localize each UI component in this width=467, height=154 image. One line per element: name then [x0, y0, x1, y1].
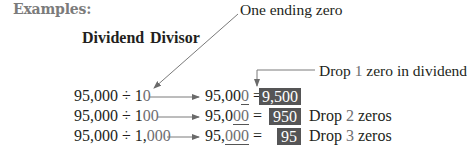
- row-3-note-suffix: zeros: [354, 127, 392, 144]
- row-1-dividend: 95,000: [74, 87, 118, 104]
- row-2-result-underlined: 00: [233, 107, 249, 124]
- row-1-answer-box: 9,500: [259, 88, 301, 105]
- row-2-operator: ÷: [122, 107, 131, 124]
- row-1-result-underlined: 0: [241, 87, 249, 104]
- row-2-divisor: 100: [135, 107, 159, 124]
- row-3-equals: =: [253, 127, 262, 144]
- row-3-divisor-lead: 1,: [135, 127, 147, 144]
- row-2-result: 95,000 =: [205, 107, 262, 125]
- row-3-note-number: 3: [346, 127, 354, 144]
- row-3-answer-box: 95: [277, 128, 301, 145]
- row-3-operator: ÷: [122, 127, 131, 144]
- row-3-result: 95,000 =: [205, 127, 262, 145]
- examples-heading: Examples:: [13, 1, 91, 17]
- row-2-note-suffix: zeros: [354, 107, 392, 124]
- row-1-divisor-zeros: 0: [143, 87, 151, 104]
- row-2-note-number: 2: [346, 107, 354, 124]
- row-3-divisor-zeros: 000: [147, 127, 171, 144]
- row-2-divisor-zeros: 00: [143, 107, 159, 124]
- row-2-note-prefix: Drop: [309, 107, 346, 124]
- one-ending-zero-label: One ending zero: [240, 1, 342, 19]
- row-3-note-prefix: Drop: [309, 127, 346, 144]
- row-3-note: Drop 3 zeros: [309, 127, 392, 145]
- row-3-expression: 95,000 ÷ 1,000: [74, 127, 171, 145]
- row-1-operator: ÷: [122, 87, 131, 104]
- row-3-result-underlined: 000: [225, 127, 249, 144]
- drop-one-zero-elbow-arrow: [257, 70, 315, 86]
- drop-one-prefix: Drop: [319, 62, 355, 79]
- row-2-dividend: 95,000: [74, 107, 118, 124]
- divisor-column-header: Divisor: [150, 29, 200, 47]
- drop-one-zero-label: Drop 1 zero in dividend: [319, 62, 467, 80]
- one-ending-zero-leader-arrow: [154, 14, 238, 88]
- row-2-equals: =: [253, 107, 262, 124]
- row-1-divisor: 10: [135, 87, 151, 104]
- drop-one-suffix: zero in dividend: [362, 62, 467, 79]
- row-2-note: Drop 2 zeros: [309, 107, 392, 125]
- row-2-answer-box: 950: [269, 108, 301, 125]
- row-3-result-prefix: 95,: [205, 127, 225, 144]
- row-2-divisor-lead: 1: [135, 107, 143, 124]
- row-2-expression: 95,000 ÷ 100: [74, 107, 159, 125]
- row-1-result: 95,000 =: [205, 87, 262, 105]
- row-1-divisor-lead: 1: [135, 87, 143, 104]
- row-3-dividend: 95,000: [74, 127, 118, 144]
- row-2-result-prefix: 95,0: [205, 107, 233, 124]
- row-1-expression: 95,000 ÷ 10: [74, 87, 151, 105]
- row-1-result-prefix: 95,00: [205, 87, 241, 104]
- dividend-column-header: Dividend: [82, 29, 144, 47]
- row-3-divisor: 1,000: [135, 127, 171, 144]
